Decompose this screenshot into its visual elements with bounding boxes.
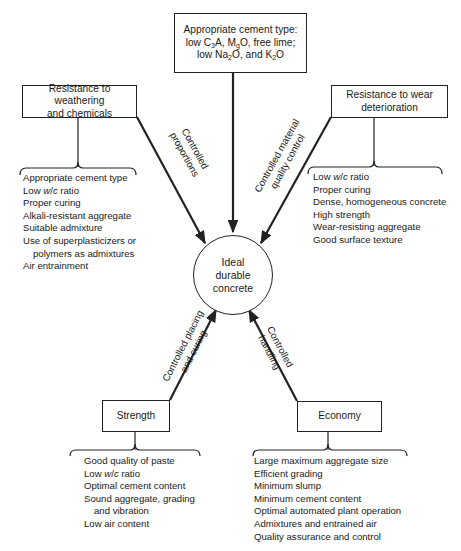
list-item: Quality assurance and control (254, 531, 401, 544)
list-item: Admixtures and entrained air (254, 518, 401, 531)
list-item: Alkali-resistant aggregate (23, 210, 136, 223)
list-item: Optimal cement content (84, 480, 195, 493)
economy-title: Economy (318, 410, 360, 423)
list-item: and vibration (84, 505, 195, 518)
strength-list: Good quality of paste Low w/c ratio Opti… (84, 455, 195, 531)
list-item: Minimum cement content (254, 493, 401, 506)
list-item: Appropriate cement type (23, 172, 136, 185)
wear-title-2: deterioration (361, 102, 418, 115)
list-item: Optimal automated plant operation (254, 505, 401, 518)
list-item: Low w/c ratio (313, 171, 446, 184)
list-item: Good quality of paste (84, 455, 195, 468)
list-item: Minimum slump (254, 480, 401, 493)
economy-list: Large maximum aggregate size Efficient g… (254, 455, 401, 543)
weathering-box: Resistance to weathering and chemicals (22, 85, 137, 118)
list-item: polymers as admixtures (23, 248, 136, 261)
center-line-2: durable (215, 269, 250, 282)
weathering-title-1: Resistance to weathering (23, 83, 136, 108)
list-item: Large maximum aggregate size (254, 455, 401, 468)
list-item: Low w/c ratio (84, 468, 195, 481)
list-item: Efficient grading (254, 468, 401, 481)
list-item: Good surface texture (313, 234, 446, 247)
wear-box: Resistance to wear deterioration (331, 85, 448, 118)
cement-line-2: low C3A, MgO, free lime; (186, 37, 296, 50)
list-item: Proper curing (313, 184, 446, 197)
list-item: Sound aggregate, grading (84, 493, 195, 506)
list-item: Suitable admixture (23, 222, 136, 235)
list-item: Proper curing (23, 197, 136, 210)
wear-title-1: Resistance to wear (346, 89, 433, 102)
list-item: Air entrainment (23, 260, 136, 273)
weathering-list: Appropriate cement type Low w/c ratio Pr… (23, 172, 136, 273)
list-item: Low air content (84, 518, 195, 531)
wear-list: Low w/c ratio Proper curing Dense, homog… (313, 171, 446, 247)
strength-title: Strength (117, 410, 156, 423)
list-item: High strength (313, 209, 446, 222)
strength-box: Strength (102, 400, 170, 432)
cement-line-1: Appropriate cement type: (184, 24, 298, 37)
list-item: Use of superplasticizers or (23, 235, 136, 248)
economy-box: Economy (297, 401, 382, 432)
weathering-title-2: and chemicals (47, 108, 112, 121)
list-item: Dense, homogeneous concrete (313, 196, 446, 209)
list-item: Low w/c ratio (23, 185, 136, 198)
center-line-1: Ideal (222, 256, 245, 269)
center-line-3: concrete (213, 282, 253, 295)
cement-line-3: low Na2O, and K2O (197, 49, 284, 62)
cement-type-box: Appropriate cement type: low C3A, MgO, f… (174, 13, 307, 73)
list-item: Wear-resisting aggregate (313, 221, 446, 234)
